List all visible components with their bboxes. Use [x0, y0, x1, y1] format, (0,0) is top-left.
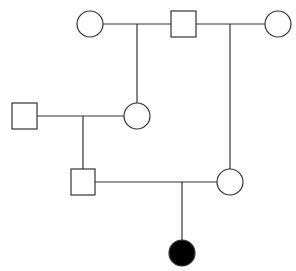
male-unaffected-symbol	[71, 169, 95, 195]
female-unaffected-symbol	[124, 103, 150, 129]
female-unaffected-symbol	[265, 11, 291, 37]
female-unaffected-symbol	[217, 169, 243, 195]
male-unaffected-symbol	[171, 11, 196, 37]
male-unaffected-symbol	[12, 103, 37, 129]
pedigree-chart	[0, 0, 296, 271]
female-affected-symbol	[169, 240, 195, 266]
female-unaffected-symbol	[77, 11, 103, 37]
